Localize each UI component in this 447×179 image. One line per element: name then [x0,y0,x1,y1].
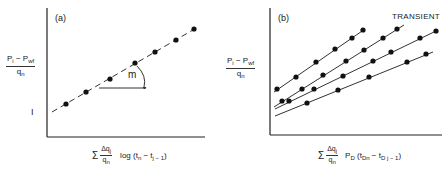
data-point [173,37,178,42]
data-point [304,100,309,105]
panel-b-points [274,26,438,105]
data-point [293,74,298,79]
data-point [388,49,393,54]
data-point [279,98,284,103]
intercept-label: I [31,107,34,117]
data-point [274,86,279,91]
data-point [299,86,304,91]
data-point [311,86,316,91]
data-point [423,51,428,56]
data-point [361,47,366,52]
data-point [83,89,88,94]
data-point [107,76,112,81]
data-point [417,35,422,40]
slope-label: m [128,70,136,80]
data-point [370,58,375,63]
data-point [320,72,325,77]
data-point [191,26,196,31]
y-axis-label-b: Pi − Pwf qn [226,56,255,81]
data-point [332,46,337,51]
y-axis-label-a: Pi − Pwf qn [6,54,35,79]
panel-a-label: (a) [55,13,66,23]
data-point [360,27,365,32]
data-point [313,59,318,64]
data-point [335,87,340,92]
data-point [286,98,291,103]
transient-title: TRANSIENT [392,12,440,22]
data-point [132,60,137,65]
panel-a-axes [47,8,205,137]
panel-b-label: (b) [278,13,289,23]
data-point [63,101,68,106]
data-point [152,49,157,54]
data-point [366,74,371,79]
series-line [275,31,436,109]
data-point [394,26,399,31]
x-axis-label-a: Σ Δqjqn log (tn − tj − 1) [92,145,167,166]
data-point [340,73,345,78]
data-point [349,35,354,40]
panel-b-axes [270,8,442,135]
data-point [380,35,385,40]
data-point [433,28,438,33]
data-point [343,58,348,63]
x-axis-label-b: Σ Δqjqn PD (tDn − tD j − 1) [318,145,401,166]
data-point [404,59,409,64]
panel-b-lines [274,25,436,116]
slope-indicator [99,66,146,89]
